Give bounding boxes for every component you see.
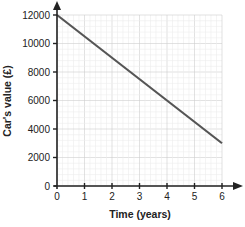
x-tick-label: 6: [219, 191, 225, 202]
y-tick-label: 2000: [28, 152, 51, 163]
x-tick-label: 5: [192, 191, 198, 202]
x-tick-label: 4: [164, 191, 170, 202]
axes: [53, 1, 243, 190]
x-tick-label: 1: [82, 191, 88, 202]
y-axis-arrow-icon: [53, 1, 61, 10]
x-tick-label: 0: [54, 191, 60, 202]
grid: [57, 15, 222, 186]
y-axis-title: Car's value (£): [1, 65, 13, 136]
y-tick-label: 8000: [28, 67, 51, 78]
x-axis-title: Time (years): [109, 208, 171, 220]
x-axis-arrow-icon: [233, 182, 243, 190]
y-tick-label: 6000: [28, 95, 51, 106]
x-tick-label: 3: [137, 191, 143, 202]
y-tick-label: 10000: [22, 38, 50, 49]
line-chart: 0123456 020004000600080001000012000 Time…: [0, 0, 245, 227]
y-tick-label: 0: [44, 181, 50, 192]
x-tick-label: 2: [109, 191, 115, 202]
y-axis-ticks: 020004000600080001000012000: [22, 10, 57, 192]
y-tick-label: 4000: [28, 124, 51, 135]
y-tick-label: 12000: [22, 10, 50, 21]
